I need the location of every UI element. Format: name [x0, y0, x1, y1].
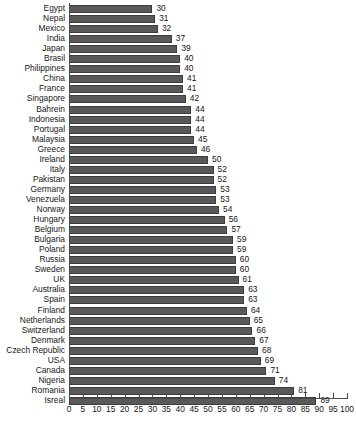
category-label: Canada [0, 366, 65, 375]
category-label: China [0, 74, 65, 83]
category-label: Greece [0, 145, 65, 154]
x-axis-tick-label: 65 [245, 404, 254, 414]
bar [69, 196, 216, 204]
bar [69, 296, 244, 304]
chart-row: Greece46 [0, 146, 356, 154]
category-label: Egypt [0, 4, 65, 13]
bar [69, 15, 155, 23]
bar [69, 347, 258, 355]
chart-row: Brasil40 [0, 55, 356, 63]
chart-row: India37 [0, 35, 356, 43]
bar [69, 136, 194, 144]
bar [69, 65, 180, 73]
bar [69, 226, 227, 234]
x-axis-tick-label: 80 [287, 404, 296, 414]
bar-value-label: 52 [218, 165, 227, 174]
x-axis-tick [111, 393, 112, 398]
x-axis-tick [236, 393, 237, 398]
chart-row: Italy52 [0, 166, 356, 174]
x-axis-tick [69, 393, 70, 398]
chart-row: Ireland50 [0, 156, 356, 164]
chart-row: Pakistan52 [0, 176, 356, 184]
category-label: Isreal [0, 396, 65, 405]
bar-value-label: 63 [248, 285, 257, 294]
chart-row: France41 [0, 85, 356, 93]
x-axis-tick-label: 85 [301, 404, 310, 414]
chart-row: Germany53 [0, 186, 356, 194]
chart-row: Norway54 [0, 206, 356, 214]
bar-value-label: 44 [195, 115, 204, 124]
category-label: Italy [0, 165, 65, 174]
bar-value-label: 54 [223, 205, 232, 214]
x-axis-tick-label: 15 [106, 404, 115, 414]
category-label: Singapore [0, 94, 65, 103]
bar [69, 146, 197, 154]
x-axis-tick [166, 393, 167, 398]
x-axis-tick-label: 55 [217, 404, 226, 414]
bar [69, 236, 233, 244]
category-label: UK [0, 275, 65, 284]
x-axis-tick-label: 100 [340, 404, 354, 414]
x-axis-tick-label: 40 [176, 404, 185, 414]
x-axis-tick-label: 70 [259, 404, 268, 414]
chart-row: USA69 [0, 357, 356, 365]
bar-value-label: 66 [256, 326, 265, 335]
chart-row: Romania81 [0, 387, 356, 395]
x-axis-tick [125, 393, 126, 398]
chart-row: Japan39 [0, 45, 356, 53]
category-label: Czech Republic [0, 346, 65, 355]
chart-row: Australia63 [0, 286, 356, 294]
x-axis-tick-label: 35 [162, 404, 171, 414]
bar [69, 156, 208, 164]
chart-row: Spain63 [0, 296, 356, 304]
bar [69, 216, 225, 224]
category-label: Romania [0, 386, 65, 395]
category-label: Bulgaria [0, 235, 65, 244]
category-label: Nepal [0, 14, 65, 23]
bar [69, 186, 216, 194]
bar [69, 116, 191, 124]
x-axis-tick-label: 95 [328, 404, 337, 414]
category-label: USA [0, 356, 65, 365]
bar [69, 166, 214, 174]
bar [69, 35, 172, 43]
bar-value-label: 53 [220, 185, 229, 194]
x-axis-tick [97, 393, 98, 398]
bar-value-label: 59 [237, 235, 246, 244]
bar-value-label: 39 [181, 44, 190, 53]
chart-row: Denmark67 [0, 337, 356, 345]
bar [69, 75, 183, 83]
chart-row: Canada71 [0, 367, 356, 375]
x-axis-tick [291, 393, 292, 398]
bar-value-label: 68 [262, 346, 271, 355]
x-axis-tick-label: 20 [120, 404, 129, 414]
x-axis-tick-label: 25 [134, 404, 143, 414]
bar [69, 206, 219, 214]
x-axis-tick-label: 50 [203, 404, 212, 414]
category-label: Mexico [0, 24, 65, 33]
category-label: Bahrein [0, 105, 65, 114]
x-axis-tick [83, 393, 84, 398]
x-axis-tick-label: 10 [92, 404, 101, 414]
category-label: Pakistan [0, 175, 65, 184]
x-axis-tick-label: 0 [67, 404, 72, 414]
category-label: Switzerland [0, 326, 65, 335]
x-axis-tick [347, 393, 348, 398]
bar-value-label: 69 [265, 356, 274, 365]
bar [69, 126, 191, 134]
x-axis-tick-label: 30 [148, 404, 157, 414]
bar-value-label: 44 [195, 105, 204, 114]
bar [69, 176, 214, 184]
category-label: Hungary [0, 215, 65, 224]
bar [69, 327, 252, 335]
category-label: Finland [0, 306, 65, 315]
bar-value-label: 74 [279, 376, 288, 385]
category-label: Germany [0, 185, 65, 194]
bar-value-label: 57 [231, 225, 240, 234]
bar [69, 106, 191, 114]
bar [69, 357, 261, 365]
category-label: Belgium [0, 225, 65, 234]
bar [69, 286, 244, 294]
chart-row: Bulgaria59 [0, 236, 356, 244]
bar-value-label: 40 [184, 54, 193, 63]
